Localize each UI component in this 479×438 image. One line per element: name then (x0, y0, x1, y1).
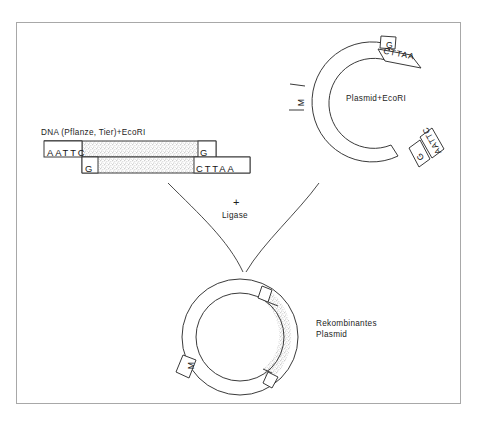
figure-caption (18, 427, 258, 438)
plasmid-sticky-end-bottom-lower-sequence: G (414, 151, 426, 162)
recombinant-marker-label: M (186, 361, 196, 369)
plasmid-sticky-end-top-lower-sequence: CTTAA (383, 46, 416, 62)
ligation-plus-sign: + (233, 196, 240, 208)
svg-text:G: G (414, 151, 426, 162)
recombinant-plasmid-label: Rekombinantes Plasmid (316, 318, 377, 340)
recombinant-label-line-2: Plasmid (316, 329, 377, 340)
recombinant-dna-diagram: DNA (Pflanze, Tier)+EcoRI AATTC G G CTTA… (0, 0, 479, 438)
recombinant-label-line-1: Rekombinantes (316, 318, 377, 329)
svg-text:CTTAA: CTTAA (383, 46, 416, 62)
svg-text:AATTC: AATTC (420, 125, 443, 156)
ligase-label: Ligase (222, 211, 248, 220)
plasmid-sticky-end-bottom-upper-sequence: AATTC (420, 125, 443, 156)
